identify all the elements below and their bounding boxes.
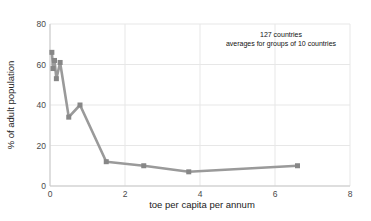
data-point-marker: [141, 163, 146, 168]
y-tick-label: 20: [37, 141, 47, 151]
x-tick-label: 2: [123, 189, 128, 199]
y-tick-label: 40: [37, 100, 47, 110]
x-tick-label: 6: [273, 189, 278, 199]
x-axis-label: toe per capita per annum: [149, 199, 255, 210]
data-point-marker: [295, 163, 300, 168]
data-line: [52, 52, 298, 171]
data-point-marker: [58, 60, 63, 65]
line-chart-canvas: 02468020406080 % of adult population toe…: [0, 0, 371, 221]
y-tick-label: 80: [37, 19, 47, 29]
y-tick-label: 60: [37, 60, 47, 70]
line-chart-figure: 02468020406080 % of adult population toe…: [0, 0, 371, 221]
data-point-marker: [54, 76, 59, 81]
x-tick-label: 0: [48, 189, 53, 199]
data-point-marker: [49, 50, 54, 55]
x-tick-label: 4: [198, 189, 203, 199]
data-series: [49, 50, 300, 174]
data-point-marker: [66, 115, 71, 120]
data-point-marker: [52, 58, 57, 63]
data-point-marker: [186, 169, 191, 174]
y-axis-label: % of adult population: [5, 61, 16, 150]
data-point-marker: [104, 159, 109, 164]
y-tick-label: 0: [41, 181, 46, 191]
x-tick-label: 8: [348, 189, 353, 199]
annotation-line-1: 127 countries: [260, 31, 303, 38]
annotation-line-2: averages for groups of 10 countries: [226, 40, 337, 48]
data-point-marker: [51, 66, 56, 71]
chart-grid: [50, 24, 350, 186]
data-point-marker: [78, 103, 83, 108]
